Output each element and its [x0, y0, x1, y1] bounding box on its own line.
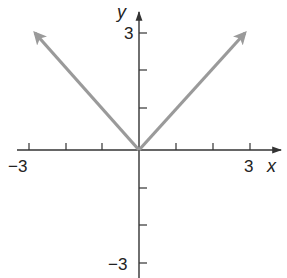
curve-left-branch: [35, 33, 139, 150]
x-axis-label: x: [266, 156, 277, 176]
y-axis-label: y: [115, 2, 127, 22]
graph: −3 3 x y 3 −3: [0, 0, 287, 278]
x-min-tick-label: −3: [8, 157, 27, 176]
curve-right-branch: [139, 33, 245, 150]
y-min-tick-label: −3: [108, 255, 127, 274]
y-max-tick-label: 3: [124, 24, 133, 43]
x-max-tick-label: 3: [244, 157, 253, 176]
